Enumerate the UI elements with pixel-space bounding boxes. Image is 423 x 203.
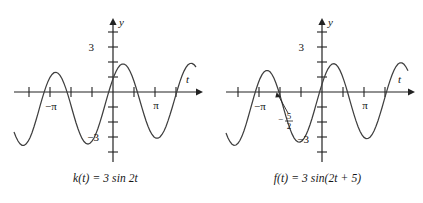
y-axis-label-left: y bbox=[118, 16, 124, 28]
x-tick-label-pi-right: π bbox=[362, 99, 368, 111]
caption-left: k(t) = 3 sin 2t bbox=[0, 172, 211, 184]
caption-right-text: f(t) = 3 sin(2t + 5) bbox=[274, 172, 361, 184]
x-tick-label-pi-left: π bbox=[153, 99, 159, 111]
y-tick-label-3-left: 3 bbox=[89, 41, 95, 53]
curve-k bbox=[14, 63, 196, 145]
trig-graph-figure: y t 3 −3 −π π k(t) = 3 sin 2t bbox=[0, 0, 423, 203]
svg-text:−: − bbox=[278, 114, 283, 124]
y-axis-label-right: y bbox=[327, 16, 333, 28]
x-axis-label-right: t bbox=[398, 73, 402, 85]
plot-area-right: y t 3 −3 −π π − 5 2 bbox=[212, 0, 423, 170]
y-axis-right bbox=[318, 18, 325, 162]
plot-area-left: y t 3 −3 −π π bbox=[0, 0, 211, 170]
graph-panel-left: y t 3 −3 −π π k(t) = 3 sin 2t bbox=[0, 0, 211, 203]
svg-text:5: 5 bbox=[287, 111, 292, 121]
y-tick-label-neg3-right: −3 bbox=[297, 133, 309, 145]
svg-text:2: 2 bbox=[287, 121, 292, 131]
y-axis-left bbox=[109, 18, 116, 162]
x-tick-label-negpi-right: −π bbox=[254, 100, 266, 112]
x-tick-label-negpi-left: −π bbox=[45, 100, 57, 112]
caption-right: f(t) = 3 sin(2t + 5) bbox=[212, 172, 423, 184]
x-axis-label-left: t bbox=[186, 73, 190, 85]
caption-left-text: k(t) = 3 sin 2t bbox=[73, 172, 138, 184]
y-tick-label-3-right: 3 bbox=[299, 41, 305, 53]
y-tick-label-neg3-left: −3 bbox=[87, 131, 99, 143]
graph-panel-right: y t 3 −3 −π π − 5 2 bbox=[212, 0, 423, 203]
